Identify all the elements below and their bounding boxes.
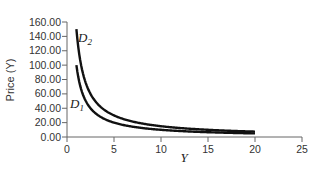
y-tick-label: 120.00 xyxy=(29,44,61,56)
y-axis-label: Price (Y) xyxy=(4,59,16,102)
x-tick-label: 10 xyxy=(155,143,167,155)
y-tick-label: 40.00 xyxy=(35,102,61,114)
y-tick-label: 60.00 xyxy=(35,87,61,99)
y-tick-label: 20.00 xyxy=(35,116,61,128)
axes: 0.0020.0040.0060.0080.00100.00120.00140.… xyxy=(29,16,308,156)
x-tick-label: 25 xyxy=(296,143,308,155)
curve-d1 xyxy=(76,65,255,133)
curves xyxy=(76,29,255,133)
x-tick-label: 0 xyxy=(64,143,70,155)
label-d2: D2 xyxy=(77,30,92,47)
curve-d2 xyxy=(76,29,255,131)
chart: 0.0020.0040.0060.0080.00100.00120.00140.… xyxy=(0,0,321,174)
y-tick-label: 100.00 xyxy=(29,59,61,71)
label-d1: D1 xyxy=(69,96,84,113)
series-labels: D1D2 xyxy=(69,30,92,113)
y-tick-label: 0.00 xyxy=(41,131,62,143)
x-tick-label: 5 xyxy=(111,143,117,155)
y-tick-label: 160.00 xyxy=(29,16,61,28)
y-tick-label: 80.00 xyxy=(35,73,61,85)
x-tick-label: 20 xyxy=(249,143,261,155)
y-tick-label: 140.00 xyxy=(29,30,61,42)
x-tick-label: 15 xyxy=(202,143,214,155)
x-axis-label: Y xyxy=(180,150,189,165)
